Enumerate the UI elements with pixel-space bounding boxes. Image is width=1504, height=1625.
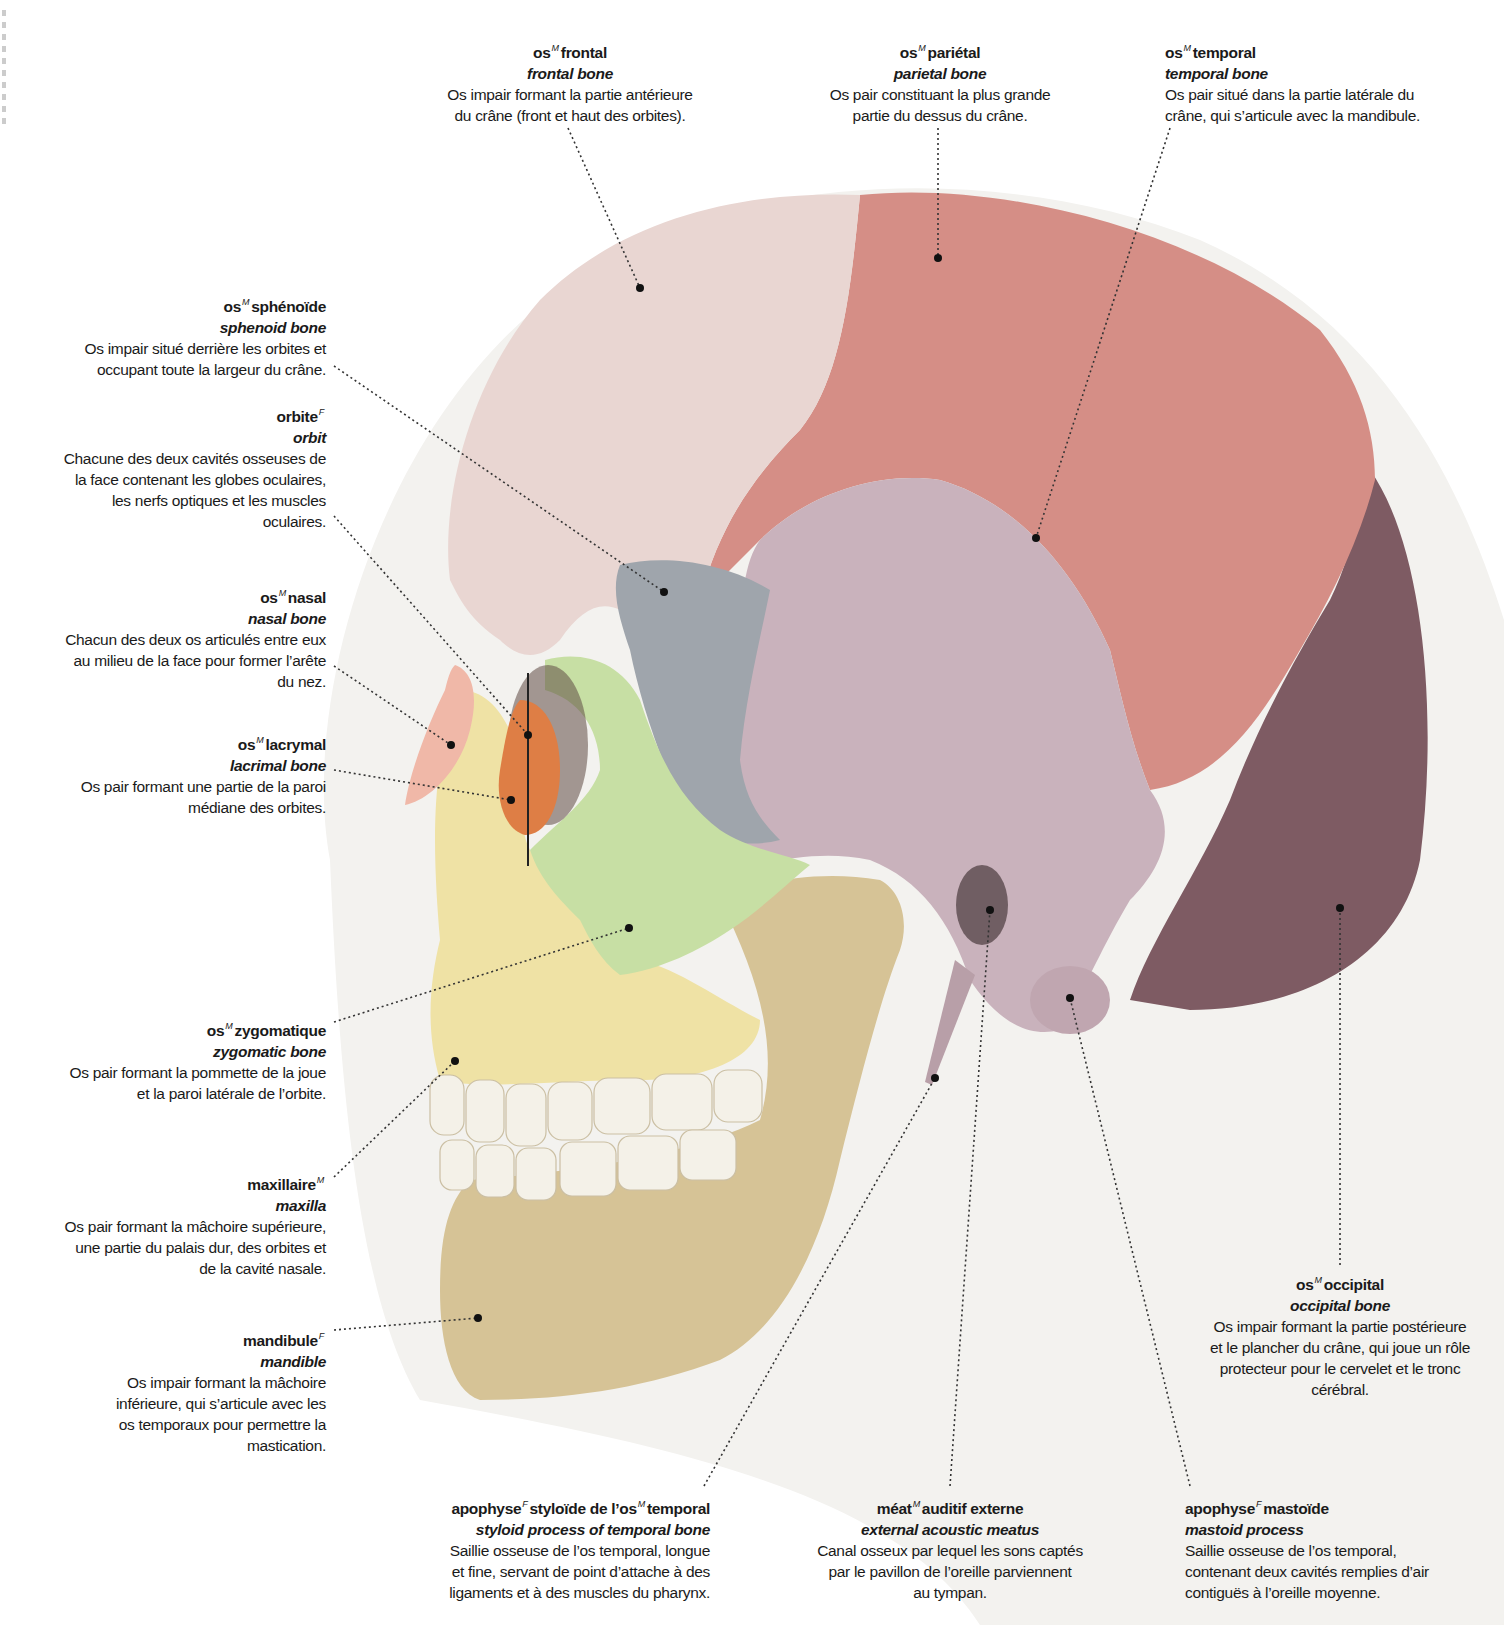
label-description-line: cérébral. xyxy=(1190,1379,1490,1400)
term-main: auditif externe xyxy=(922,1500,1023,1517)
gender-marker: F xyxy=(319,407,324,417)
label-description-line: du nez. xyxy=(30,671,326,692)
term-main: sphénoïde xyxy=(251,298,326,315)
term-main: mastoïde xyxy=(1263,1500,1329,1517)
label-description-line: Os impair formant la mâchoire xyxy=(30,1372,326,1393)
label-english-term: parietal bone xyxy=(780,63,1100,84)
orbit-bracket xyxy=(527,673,529,866)
label-english-term: mandible xyxy=(30,1351,326,1372)
label-description-line: et fine, servant de point d’attache à de… xyxy=(400,1561,710,1582)
term-main: styloïde de l’os xyxy=(530,1500,637,1517)
label-description-line: Chacun des deux os articulés entre eux xyxy=(30,629,326,650)
leader-dot-mastoid xyxy=(1066,994,1074,1002)
label-description-line: Os impair formant la partie postérieure xyxy=(1190,1316,1490,1337)
gender-marker: M xyxy=(256,735,263,745)
label-lacrimal: osMlacrymallacrimal boneOs pair formant … xyxy=(30,730,326,818)
label-english-term: lacrimal bone xyxy=(30,755,326,776)
label-description-line: contenant deux cavités remplies d’air xyxy=(1185,1561,1495,1582)
term-main: orbite xyxy=(277,408,318,425)
label-description-line: du crâne (front et haut des orbites). xyxy=(410,105,730,126)
leader-dot-styloid xyxy=(931,1074,939,1082)
meatus-opening xyxy=(956,865,1008,945)
label-english-term: styloid process of temporal bone xyxy=(400,1519,710,1540)
label-description-line: de la cavité nasale. xyxy=(30,1258,326,1279)
leader-dot-parietal xyxy=(934,254,942,262)
label-english-term: external acoustic meatus xyxy=(790,1519,1110,1540)
gender-marker: M xyxy=(638,1499,645,1509)
term-main: nasal xyxy=(288,589,326,606)
term-main: frontal xyxy=(561,44,607,61)
label-english-term: maxilla xyxy=(30,1195,326,1216)
term-prefix: apophyse xyxy=(451,1500,521,1517)
term-prefix: os xyxy=(533,44,551,61)
label-description-line: oculaires. xyxy=(30,511,326,532)
term-prefix: os xyxy=(900,44,918,61)
label-description-line: partie du dessus du crâne. xyxy=(780,105,1100,126)
label-english-term: sphenoid bone xyxy=(30,317,326,338)
leader-dot-sphenoid xyxy=(660,588,668,596)
term-main: mandibule xyxy=(243,1332,318,1349)
term-prefix: os xyxy=(1296,1276,1314,1293)
gender-marker: F xyxy=(1256,1499,1261,1509)
label-description-line: Os pair formant la pommette de la joue xyxy=(30,1062,326,1083)
gender-marker: M xyxy=(242,297,249,307)
label-english-term: zygomatic bone xyxy=(30,1041,326,1062)
leader-dot-zygomatic xyxy=(625,924,633,932)
label-english-term: orbit xyxy=(30,427,326,448)
label-description-line: Os pair situé dans la partie latérale du xyxy=(1165,84,1495,105)
label-english-term: frontal bone xyxy=(410,63,730,84)
gender-marker: M xyxy=(1315,1275,1322,1285)
label-french-term: osMsphénoïde xyxy=(30,292,326,317)
gender-marker: M xyxy=(918,43,925,53)
gender-marker: F xyxy=(522,1499,527,1509)
label-description-line: Os impair formant la partie antérieure xyxy=(410,84,730,105)
label-english-term: temporal bone xyxy=(1165,63,1495,84)
leader-dot-maxilla xyxy=(451,1057,459,1065)
label-description-line: Saillie osseuse de l’os temporal, xyxy=(1185,1540,1495,1561)
label-description-line: Saillie osseuse de l’os temporal, longue xyxy=(400,1540,710,1561)
label-french-term: mandibuleF xyxy=(30,1326,326,1351)
label-english-term: mastoid process xyxy=(1185,1519,1495,1540)
label-description-line: os temporaux pour permettre la xyxy=(30,1414,326,1435)
term-prefix: apophyse xyxy=(1185,1500,1255,1517)
term-prefix: os xyxy=(1165,44,1183,61)
label-french-term: maxillaireM xyxy=(30,1170,326,1195)
label-mandible: mandibuleFmandibleOs impair formant la m… xyxy=(30,1326,326,1456)
term-main: maxillaire xyxy=(247,1176,316,1193)
label-zygomatic: osMzygomatiquezygomatic boneOs pair form… xyxy=(30,1016,326,1104)
gender-marker: M xyxy=(1184,43,1191,53)
gender-marker: M xyxy=(552,43,559,53)
label-french-term: osMnasal xyxy=(30,583,326,608)
label-frontal: osMfrontalfrontal boneOs impair formant … xyxy=(410,38,730,126)
term-main: temporal xyxy=(1193,44,1256,61)
label-description-line: crâne, qui s’articule avec la mandibule. xyxy=(1165,105,1495,126)
label-description-line: inférieure, qui s’articule avec les xyxy=(30,1393,326,1414)
gender-marker: M xyxy=(225,1021,232,1031)
label-description-line: et le plancher du crâne, qui joue un rôl… xyxy=(1190,1337,1490,1358)
label-description-line: Os pair constituant la plus grande xyxy=(780,84,1100,105)
label-description-line: et la paroi latérale de l’orbite. xyxy=(30,1083,326,1104)
label-french-term: osMoccipital xyxy=(1190,1270,1490,1295)
label-description-line: au tympan. xyxy=(790,1582,1110,1603)
term-main: pariétal xyxy=(927,44,980,61)
term-prefix: os xyxy=(238,736,256,753)
label-description-line: Os impair situé derrière les orbites et xyxy=(30,338,326,359)
gender-marker: M xyxy=(317,1175,324,1185)
term-main: occipital xyxy=(1324,1276,1384,1293)
label-french-term: apophyseFstyloïde de l’osMtemporal xyxy=(400,1494,710,1519)
leader-dot-mandible xyxy=(474,1314,482,1322)
label-occipital: osMoccipitaloccipital boneOs impair form… xyxy=(1190,1270,1490,1400)
leader-dot-frontal xyxy=(636,284,644,292)
label-description-line: une partie du palais dur, des orbites et xyxy=(30,1237,326,1258)
label-french-term: osMpariétal xyxy=(780,38,1100,63)
label-french-term: osMtemporal xyxy=(1165,38,1495,63)
gender-marker: M xyxy=(913,1499,920,1509)
label-french-term: osMfrontal xyxy=(410,38,730,63)
label-description-line: Os pair formant la mâchoire supérieure, xyxy=(30,1216,326,1237)
label-french-term: apophyseFmastoïde xyxy=(1185,1494,1495,1519)
label-french-term: osMlacrymal xyxy=(30,730,326,755)
label-description-line: mastication. xyxy=(30,1435,326,1456)
label-sphenoid: osMsphénoïdesphenoid boneOs impair situé… xyxy=(30,292,326,380)
label-orbit: orbiteForbitChacune des deux cavités oss… xyxy=(30,402,326,532)
gender-marker: M xyxy=(279,588,286,598)
